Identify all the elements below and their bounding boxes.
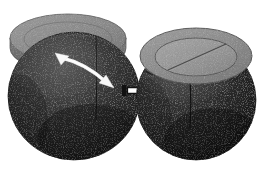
capsule-lid-seated <box>140 28 252 84</box>
capsule-sequence-illustration: Capsule lid placement sequence <box>0 0 269 172</box>
diagram-canvas: Capsule lid placement sequence <box>0 0 269 172</box>
transition-arrow-tail-block <box>122 85 127 96</box>
